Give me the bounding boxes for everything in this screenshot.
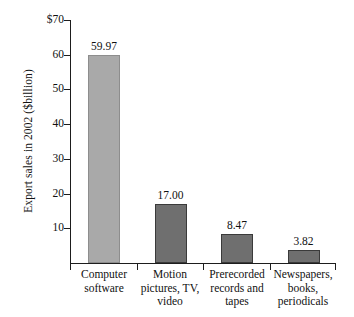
category-line-1: Motion xyxy=(132,268,208,282)
y-tick-labels: $70 60 50 40 30 20 10 xyxy=(16,20,64,264)
y-tick-label-20: 20 xyxy=(18,187,64,199)
category-line-3: video xyxy=(132,295,208,309)
y-tick-label-50: 50 xyxy=(18,82,64,94)
category-line-3: tapes xyxy=(199,295,275,309)
y-tick-label-70: $70 xyxy=(18,13,64,25)
category-line-2: pictures, TV, xyxy=(132,282,208,296)
plot-area: $70 60 50 40 30 20 10 59.97 17.00 8.47 3… xyxy=(70,20,335,263)
y-tick-mark-20 xyxy=(64,194,70,195)
y-tick-mark-60 xyxy=(64,55,70,56)
y-tick-label-10: 10 xyxy=(18,221,64,233)
bar-motion-pictures[interactable] xyxy=(155,204,187,263)
bar-chart: Export sales in 2002 ($billion) $70 60 5… xyxy=(0,0,354,317)
bar-value-motion-pictures: 17.00 xyxy=(141,189,201,201)
category-label-prerecorded-records: Prerecorded records and tapes xyxy=(199,268,275,309)
category-line-1: Prerecorded xyxy=(199,268,275,282)
bar-value-newspapers-books: 3.82 xyxy=(274,235,334,247)
bar-value-prerecorded-records: 8.47 xyxy=(207,219,267,231)
category-label-computer-software: Computer software xyxy=(68,268,140,295)
category-line-3: periodicals xyxy=(265,295,341,309)
y-tick-mark-10 xyxy=(64,228,70,229)
x-axis-category-labels: Computer software Motion pictures, TV, v… xyxy=(70,268,336,317)
category-label-motion-pictures: Motion pictures, TV, video xyxy=(132,268,208,309)
y-tick-mark-70 xyxy=(64,20,70,21)
category-label-newspapers-books: Newspapers, books, periodicals xyxy=(265,268,341,309)
y-axis-line xyxy=(70,20,71,264)
bar-newspapers-books[interactable] xyxy=(288,250,320,263)
y-tick-label-40: 40 xyxy=(18,117,64,129)
y-tick-label-30: 30 xyxy=(18,152,64,164)
category-line-1: Newspapers, xyxy=(265,268,341,282)
bar-computer-software[interactable] xyxy=(88,55,120,263)
category-line-2: books, xyxy=(265,282,341,296)
category-line-1: Computer xyxy=(68,268,140,282)
category-line-2: software xyxy=(68,282,140,296)
y-tick-mark-40 xyxy=(64,124,70,125)
y-tick-mark-50 xyxy=(64,89,70,90)
bar-prerecorded-records[interactable] xyxy=(221,234,253,263)
category-line-2: records and xyxy=(199,282,275,296)
y-tick-label-60: 60 xyxy=(18,48,64,60)
y-tick-mark-30 xyxy=(64,159,70,160)
bar-value-computer-software: 59.97 xyxy=(74,40,134,52)
